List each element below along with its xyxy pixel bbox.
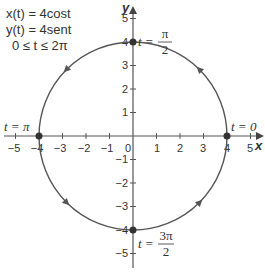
- label-t-3pi-half: t = 3π 2: [138, 228, 174, 259]
- svg-text:2: 2: [163, 244, 170, 259]
- svg-text:3: 3: [122, 59, 128, 71]
- svg-text:−1: −1: [101, 142, 114, 154]
- chart-canvas: −5 −4 −3 −2 −1 0 1 2 3 4 5 5 4 3 2 1 −1 …: [0, 0, 265, 275]
- svg-text:2: 2: [122, 83, 128, 95]
- svg-text:−2: −2: [115, 177, 128, 189]
- y-axis-label: y: [121, 0, 130, 15]
- svg-text:−1: −1: [115, 153, 128, 165]
- svg-text:2: 2: [177, 142, 183, 154]
- svg-text:−5: −5: [8, 142, 21, 154]
- svg-text:5: 5: [247, 142, 253, 154]
- label-t0: t = 0: [231, 119, 257, 134]
- svg-text:t =: t =: [138, 34, 154, 49]
- svg-text:3π: 3π: [159, 228, 173, 243]
- svg-text:−4: −4: [31, 142, 44, 154]
- label-t-pi: t = π: [4, 119, 30, 134]
- svg-text:1: 1: [122, 106, 128, 118]
- svg-text:π: π: [162, 26, 169, 41]
- svg-text:−3: −3: [54, 142, 67, 154]
- x-axis-label: x: [254, 138, 263, 153]
- svg-text:3: 3: [200, 142, 206, 154]
- svg-text:−5: −5: [115, 247, 128, 259]
- point-t-pi-half: [130, 39, 137, 46]
- svg-text:−3: −3: [115, 200, 128, 212]
- label-t-pi-half: t = π 2: [138, 26, 172, 57]
- svg-text:t =: t =: [138, 236, 154, 251]
- point-t0: [224, 133, 231, 140]
- svg-text:−2: −2: [78, 142, 91, 154]
- point-t-3pi-half: [130, 227, 137, 234]
- svg-text:1: 1: [154, 142, 160, 154]
- svg-text:2: 2: [162, 42, 169, 57]
- point-t-pi: [36, 133, 43, 140]
- x-tick-labels: −5 −4 −3 −2 −1 0 1 2 3 4 5: [8, 142, 253, 154]
